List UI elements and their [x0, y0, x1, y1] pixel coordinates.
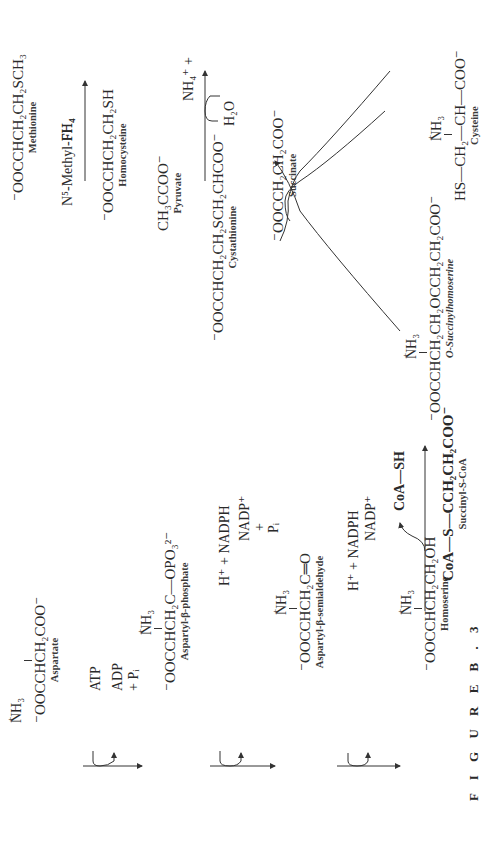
ammonium-label: NH₄⁺ +	[180, 57, 197, 101]
pyruvate: CH₃CCOO⁻ Pyruvate	[155, 155, 183, 231]
arrow-cys-to-succinate	[288, 71, 390, 201]
methionine: ⁻OOCCHCH₂CH₂SCH₃ Methionine	[10, 54, 38, 201]
cysteine-nh3: +NH₃	[430, 50, 444, 141]
figure-label: F I G U R E B . 3	[466, 622, 482, 802]
pyruvate-formula: CH₃CCOO⁻	[155, 155, 171, 231]
homocysteine-name: Homocysteine	[117, 89, 128, 221]
aspartyl-phosphate-name: Aspartyl-β-phosphate	[179, 532, 190, 691]
aspartyl-phosphate-nh3: +NH₃	[140, 532, 154, 635]
cystathionine: ⁻OOCCHCH₂CH₂SCH₂CHCOO⁻ Cystathionine	[210, 134, 238, 341]
succinyl-coa-name: Succinyl-S-CoA	[457, 407, 468, 581]
o-succinylhomoserine-name: O-Succinylhomoserine	[444, 196, 455, 421]
pi-label-2: Pᵢ	[266, 523, 282, 533]
aspartate-formula: ⁻OOCCHCH₂COO⁻	[32, 597, 48, 723]
nadph-label-2: H⁺ + NADPH	[345, 510, 362, 591]
aspartyl-phosphate-formula: ⁻OOCCHCH₂C—OPO₃²⁻	[162, 532, 178, 691]
pyruvate-name: Pyruvate	[172, 155, 183, 231]
o-succinylhomoserine-nh3: +NH₃	[405, 196, 419, 359]
cofactor-curve-step6	[205, 96, 220, 121]
bond	[289, 608, 297, 609]
fh4-label: FH₄	[60, 118, 76, 141]
cystathionine-name: Cystathionine	[227, 134, 238, 341]
cofactor-curve-step1	[93, 751, 114, 766]
nadp-label-2: NADP⁺	[362, 495, 379, 541]
rotated-figure-page: +NH₃ ⁻OOCCHCH₂COO⁻ Aspartate ATP ADP + P…	[0, 0, 498, 841]
homoserine-nh3: +NH₃	[400, 537, 414, 615]
cysteine: +NH₃ HS—CH₂—CH—COO⁻ Cysteine	[430, 50, 480, 201]
o-succinylhomoserine: +NH₃ ⁻OOCCHCH₂CH₂OCCH₂CH₂COO⁻ O-Succinyl…	[405, 196, 455, 421]
cysteine-formula: HS—CH₂—CH—COO⁻	[452, 50, 468, 201]
succinyl-coa: CoA—S—CCH₂CH₂COO⁻ Succinyl-S-CoA	[440, 407, 468, 581]
cofactor-curve-step2	[220, 751, 241, 766]
aspartyl-semialdehyde-nh3: +NH₃	[275, 553, 289, 615]
aspartate-nh3: +NH₃	[10, 597, 24, 723]
methionine-formula: ⁻OOCCHCH₂CH₂SCH₃	[10, 54, 26, 201]
cysteine-name: Cysteine	[469, 50, 480, 201]
aspartyl-semialdehyde: +NH₃ ⁻OOCCHCH₂C═O Aspartyl-β-semialdehyd…	[275, 553, 325, 671]
homocysteine: ⁻OOCCHCH₂CH₂SH Homocysteine	[100, 89, 128, 221]
atp-label: ATP	[88, 666, 104, 691]
nadph-label-1: H⁺ + NADPH	[216, 505, 233, 586]
homoserine-formula: ⁻OOCCHCH₂CH₂OH	[422, 537, 438, 671]
aspartate-name: Aspartate	[49, 597, 60, 723]
aspartate: +NH₃ ⁻OOCCHCH₂COO⁻ Aspartate	[10, 597, 60, 723]
aspartyl-semialdehyde-formula: ⁻OOCCHCH₂C═O	[297, 553, 313, 671]
bond	[414, 608, 422, 609]
succinyl-coa-formula: CoA—S—CCH₂CH₂COO⁻	[440, 407, 456, 581]
methionine-name: Methionine	[27, 54, 38, 201]
cofactor-curve-step3	[348, 753, 368, 766]
aspartyl-semialdehyde-name: Aspartyl-β-semialdehyde	[314, 553, 325, 671]
o-succinylhomoserine-formula: ⁻OOCCHCH₂CH₂OCCH₂CH₂COO⁻	[427, 196, 443, 421]
arrow-to-succinate	[285, 111, 385, 221]
succinate-name: Succinate	[287, 110, 298, 241]
succinate-formula: ⁻OOCCH₂CH₂COO⁻	[270, 110, 286, 241]
nadp-label-1: NADP⁺	[236, 495, 253, 541]
water-label: H₂O	[222, 101, 238, 126]
bond	[444, 134, 452, 135]
adp-label: ADP	[110, 663, 126, 691]
cystathionine-formula: ⁻OOCCHCH₂CH₂SCH₂CHCOO⁻	[210, 134, 226, 341]
homocysteine-formula: ⁻OOCCHCH₂CH₂SH	[100, 89, 116, 221]
coa-sh: CoA—SH	[392, 451, 408, 511]
succinate: ⁻OOCCH₂CH₂COO⁻ Succinate	[270, 110, 298, 241]
bond	[419, 352, 427, 353]
aspartyl-phosphate: +NH₃ ⁻OOCCHCH₂C—OPO₃²⁻ Aspartyl-β-phosph…	[140, 532, 190, 691]
bond	[24, 660, 32, 661]
bond	[154, 628, 162, 629]
